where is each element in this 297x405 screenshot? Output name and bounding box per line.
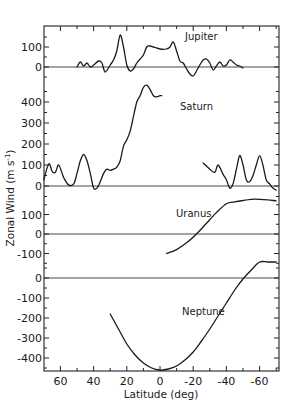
plot-frame xyxy=(44,26,279,371)
planet-label-saturn: Saturn xyxy=(180,101,213,112)
y-tick-label-saturn: 200 xyxy=(21,138,42,151)
y-tick-label-neptune: -100 xyxy=(17,292,42,305)
x-axis: 6040200-20-40-60 xyxy=(53,26,276,388)
wind-curves xyxy=(44,35,276,370)
y-tick-label-jupiter: 100 xyxy=(21,41,42,54)
y-tick-label-uranus: 0 xyxy=(35,228,42,241)
y-tick-label-saturn: 0 xyxy=(35,180,42,193)
x-tick-label: 60 xyxy=(53,375,67,388)
x-tick-label: 20 xyxy=(120,375,134,388)
planet-label-jupiter: Jupiter xyxy=(184,31,218,42)
y-tick-label-neptune: -300 xyxy=(17,332,42,345)
x-tick-label: -60 xyxy=(251,375,269,388)
zero-lines xyxy=(44,67,279,278)
x-tick-label: -20 xyxy=(184,375,202,388)
zonal-wind-chart: 100040030020010001000-1000-100-200-300-4… xyxy=(0,0,297,405)
y-tick-label-jupiter: 0 xyxy=(35,61,42,74)
y-tick-label-uranus: -100 xyxy=(17,248,42,261)
planet-labels: JupiterSaturnUranusNeptune xyxy=(176,31,225,317)
curve-saturn xyxy=(44,85,162,189)
y-tick-label-neptune: 0 xyxy=(35,272,42,285)
y-tick-label-neptune: -400 xyxy=(17,352,42,365)
curve-saturn xyxy=(203,156,276,191)
x-tick-label: -40 xyxy=(217,375,235,388)
curve-jupiter xyxy=(77,35,243,76)
y-tick-label-saturn: 100 xyxy=(21,159,42,172)
y-axis-title: Zonal Wind (m s-1) xyxy=(4,150,16,247)
planet-label-uranus: Uranus xyxy=(176,208,211,219)
x-tick-label: 0 xyxy=(157,375,164,388)
y-tick-label-saturn: 300 xyxy=(21,117,42,130)
svg-text:Zonal Wind (m s-1): Zonal Wind (m s-1) xyxy=(4,150,16,247)
y-tick-label-neptune: -200 xyxy=(17,312,42,325)
y-tick-label-saturn: 400 xyxy=(21,96,42,109)
y-tick-label-uranus: 100 xyxy=(21,209,42,222)
x-axis-title: Latitude (deg) xyxy=(124,388,199,400)
planet-label-neptune: Neptune xyxy=(182,306,225,317)
x-tick-label: 40 xyxy=(87,375,101,388)
